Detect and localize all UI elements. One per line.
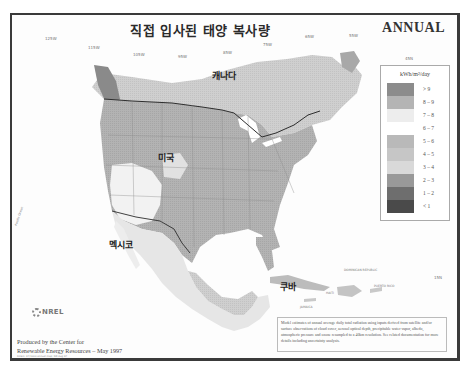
cuba-island [270,275,330,291]
longitude-label: 55W [349,33,358,38]
legend-item: < 1 [387,200,445,213]
legend-label: 6 – 7 [423,125,434,131]
legend-label: 8 – 9 [423,99,434,105]
country-label-usa: 미국 [158,151,174,164]
legend-item: 3 – 4 [387,161,445,174]
legend-swatch [387,161,414,174]
legend-swatch [387,135,414,148]
nrel-logo-icon [32,308,41,317]
small-credit: Direct: 47/1000 annual map; NR Aug 97 [17,355,67,358]
map-frame: 직접 입사된 태양 복사량 ANNUAL 125W 115W 105W 95W … [10,13,460,361]
legend-label: 2 – 3 [423,177,434,183]
longitude-label: 95W [178,54,187,59]
legend-label: > 9 [423,86,430,92]
legend-item: 8 – 9 [387,96,445,109]
latitude-label: 45N [405,56,413,61]
legend: kWh/m²/day > 9 8 – 9 7 – 8 6 – 7 5 – 6 4… [380,65,450,221]
legend-label: 1 – 2 [423,190,434,196]
caribbean-label: PUERTO RICO [374,284,394,288]
map-title: 직접 입사된 태양 복사량 [130,20,270,39]
caribbean-label: DOMINICAN REPUBLIC [344,268,377,272]
legend-swatch [387,122,414,135]
legend-unit: kWh/m²/day [381,71,449,77]
longitude-label: 105W [133,52,145,57]
legend-swatch [387,83,414,96]
legend-label: 4 – 5 [423,151,434,157]
nrel-logo: NREL [32,308,64,317]
legend-label: 5 – 6 [423,138,434,144]
country-label-canada: 캐나다 [212,69,236,82]
producer-credit: Produced by the Center for Renewable Ene… [17,337,122,355]
longitude-label: 65W [305,34,314,39]
legend-label: 7 – 8 [423,112,434,118]
latitude-label: 15N [434,275,442,280]
longitude-label: 85W [223,50,232,55]
country-label-cuba: 쿠바 [280,280,296,293]
longitude-label: 115W [88,45,100,50]
legend-item: 7 – 8 [387,109,445,122]
period-label: ANNUAL [382,20,445,36]
hispaniola [337,285,362,297]
legend-swatch [387,148,414,161]
longitude-label: 125W [45,36,57,41]
producer-line-2: Renewable Energy Resources – May 1997 [17,346,122,355]
legend-item: > 9 [387,83,445,96]
legend-item: 6 – 7 [387,122,445,135]
country-label-mexico: 멕시코 [109,238,133,251]
legend-swatch [387,96,414,109]
legend-item: 1 – 2 [387,187,445,200]
legend-swatch [387,200,414,213]
legend-item: 4 – 5 [387,148,445,161]
legend-item: 5 – 6 [387,135,445,148]
legend-item: 2 – 3 [387,174,445,187]
methodology-note: Model estimates of annual average daily … [277,317,447,352]
jamaica [304,298,316,302]
longitude-label: 75W [263,42,272,47]
legend-swatch [387,109,414,122]
caribbean-label: HAITI [326,291,334,295]
producer-line-1: Produced by the Center for [17,337,122,346]
legend-swatch [387,187,414,200]
nrel-logo-text: NREL [42,308,64,316]
legend-label: 3 – 4 [423,164,434,170]
legend-label: < 1 [423,203,430,209]
caribbean-label: JAMAICA [300,305,313,309]
legend-swatch [387,174,414,187]
